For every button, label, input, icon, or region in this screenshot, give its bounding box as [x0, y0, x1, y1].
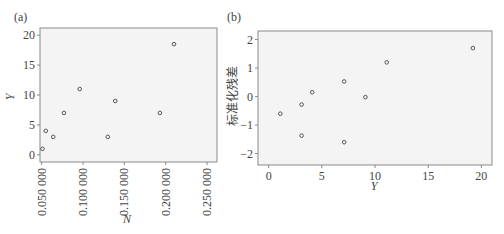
figure: (a) 05101520 0.050 0000.100 0000.150 000… — [0, 0, 504, 234]
x-tick-label: 0.200 000 — [159, 168, 173, 216]
x-tick-label: 20 — [475, 169, 487, 183]
panel-b-residuals-vs-y: (b) −2−1012 05101520 标准化残差 Y — [226, 10, 492, 193]
panel-b-y-axis-title: 标准化残差 — [226, 66, 240, 126]
figure-canvas: (a) 05101520 0.050 0000.100 0000.150 000… — [0, 0, 504, 234]
y-tick-label: −1 — [240, 118, 253, 132]
panel-b-label: (b) — [227, 10, 241, 24]
panel-a-label: (a) — [14, 10, 27, 24]
y-tick-label: 5 — [29, 118, 35, 132]
panel-a-x-axis-title: N — [122, 212, 132, 226]
y-tick-label: 20 — [23, 28, 35, 42]
y-tick-label: 0 — [247, 90, 253, 104]
x-tick-label: 5 — [319, 169, 325, 183]
x-tick-label: 0.100 000 — [76, 168, 90, 216]
x-tick-label: 0.250 000 — [200, 168, 214, 216]
y-tick-label: 15 — [23, 58, 35, 72]
x-tick-label: 0.050 000 — [35, 168, 49, 216]
y-tick-label: 0 — [29, 148, 35, 162]
panel-a-x-axis: 0.050 0000.100 0000.150 0000.200 0000.25… — [35, 162, 214, 216]
x-tick-label: 0.150 000 — [117, 168, 131, 216]
panel-a-y-axis-title: Y — [3, 92, 17, 100]
panel-b-plot-area — [258, 31, 492, 165]
x-tick-label: 0 — [266, 169, 272, 183]
y-tick-label: −2 — [240, 147, 253, 161]
y-tick-label: 1 — [247, 61, 253, 75]
y-tick-label: 10 — [23, 88, 35, 102]
panel-a-y-axis: 05101520 — [23, 28, 40, 162]
panel-b-y-axis: −2−1012 — [240, 33, 258, 161]
x-tick-label: 15 — [422, 169, 434, 183]
y-tick-label: 2 — [247, 33, 253, 47]
panel-a-plot-area — [40, 28, 217, 162]
panel-a-scatter-n-vs-y: (a) 05101520 0.050 0000.100 0000.150 000… — [3, 10, 217, 226]
